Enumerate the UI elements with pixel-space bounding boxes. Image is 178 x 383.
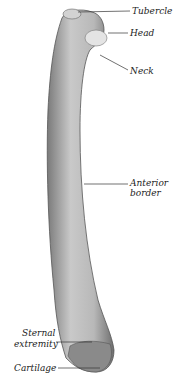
costal-cartilage [68,341,111,372]
label-tubercle: Tubercle [132,6,172,16]
rib-head [85,30,107,46]
label-cartilage: Cartilage [14,363,56,373]
rib-tubercle [63,9,81,19]
label-head: Head [130,28,154,38]
label-border: border [130,188,161,198]
label-extremity: extremity [14,339,58,349]
leader-neck [100,55,128,70]
anatomy-figure: Tubercle Head Neck Anterior border Stern… [0,0,178,383]
label-sternal: Sternal [22,328,55,338]
label-neck: Neck [130,66,154,76]
label-anterior: Anterior [130,178,168,188]
rib-shaft [47,10,114,372]
